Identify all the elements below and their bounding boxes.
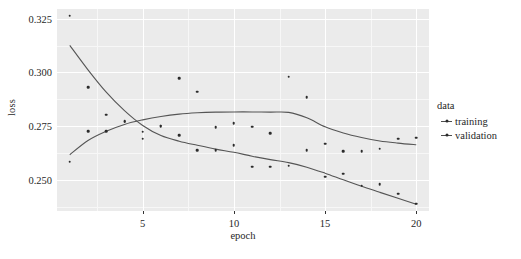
plot-panel xyxy=(57,9,429,211)
data-point xyxy=(233,122,236,125)
y-axis-ticks: 0.2500.2750.3000.325 xyxy=(6,0,52,259)
x-tick-label: 20 xyxy=(411,218,422,229)
legend-title: data xyxy=(437,100,519,111)
data-point xyxy=(324,142,327,145)
smooth-curves-layer xyxy=(57,9,429,211)
data-point xyxy=(123,120,126,123)
data-point xyxy=(269,166,272,169)
y-tick-label: 0.250 xyxy=(6,174,52,185)
y-tick-label: 0.300 xyxy=(6,67,52,78)
x-tick-mark xyxy=(234,211,235,214)
data-point xyxy=(196,90,199,93)
data-point xyxy=(214,149,217,152)
legend-item-label: training xyxy=(455,116,488,127)
legend-key-icon xyxy=(440,115,453,128)
legend-item-training[interactable]: training xyxy=(440,114,519,128)
data-point xyxy=(287,75,290,78)
data-point xyxy=(87,86,90,89)
data-point xyxy=(105,113,108,116)
data-point xyxy=(379,183,382,186)
data-point xyxy=(269,132,272,135)
data-point xyxy=(342,150,345,153)
legend-key-point xyxy=(445,120,448,123)
data-point xyxy=(178,77,181,80)
data-point xyxy=(415,202,418,205)
data-point xyxy=(69,14,72,17)
data-point xyxy=(324,175,327,178)
data-point xyxy=(306,96,309,99)
data-point xyxy=(141,137,144,140)
data-point xyxy=(105,130,108,133)
data-point xyxy=(87,130,90,133)
legend: data trainingvalidation xyxy=(437,100,519,142)
data-point xyxy=(214,126,217,129)
x-tick-label: 10 xyxy=(229,218,240,229)
data-point xyxy=(415,137,418,140)
x-tick-mark xyxy=(325,211,326,214)
x-axis-title: epoch xyxy=(57,230,429,241)
data-point xyxy=(251,125,254,128)
data-point xyxy=(342,172,345,175)
x-tick-label: 15 xyxy=(320,218,331,229)
data-point xyxy=(141,130,144,133)
x-tick-mark xyxy=(416,211,417,214)
data-point xyxy=(379,147,382,150)
data-point xyxy=(233,144,236,147)
data-point xyxy=(360,184,363,187)
data-point xyxy=(360,150,363,153)
legend-key-icon xyxy=(440,129,453,142)
legend-item-label: validation xyxy=(455,130,497,141)
data-point xyxy=(397,192,400,195)
data-point xyxy=(178,134,181,137)
y-tick-label: 0.275 xyxy=(6,121,52,132)
legend-items: trainingvalidation xyxy=(437,114,519,142)
data-point xyxy=(397,137,400,140)
data-point xyxy=(69,160,72,163)
data-point xyxy=(196,149,199,152)
data-point xyxy=(251,165,254,168)
x-tick-mark xyxy=(143,211,144,214)
legend-item-validation[interactable]: validation xyxy=(440,128,519,142)
smooth-curve xyxy=(70,112,416,155)
data-point xyxy=(306,149,309,152)
x-tick-label: 5 xyxy=(140,218,145,229)
data-point xyxy=(160,124,163,127)
data-point xyxy=(287,164,290,167)
y-tick-label: 0.325 xyxy=(6,13,52,24)
chart-figure: loss 0.2500.2750.3000.325 5101520 epoch … xyxy=(0,0,521,259)
legend-key-point xyxy=(445,134,448,137)
